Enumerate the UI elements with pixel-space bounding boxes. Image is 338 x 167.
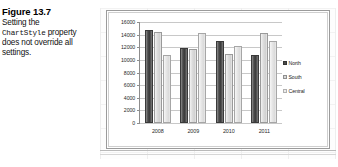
embedded-chart-object[interactable]: 1600014000120001000080006000400020000 20… — [106, 10, 330, 149]
figure-caption-title: Figure 13.7 — [2, 6, 94, 17]
chart-legend[interactable]: NorthSouthCentral — [283, 60, 325, 102]
x-axis-tick-label: 2011 — [259, 128, 270, 134]
bar-central-2008[interactable] — [163, 55, 171, 123]
bar-north-2009[interactable] — [180, 48, 188, 123]
legend-label: Central — [289, 88, 305, 94]
spreadsheet-screenshot-panel: 1600014000120001000080006000400020000 20… — [100, 8, 336, 159]
y-axis-tick-label: 8000 — [124, 70, 135, 76]
bar-central-2011[interactable] — [269, 41, 277, 123]
chart-inner-area: 1600014000120001000080006000400020000 20… — [110, 14, 326, 145]
legend-swatch-icon — [283, 75, 287, 79]
y-axis-tick-label: 16000 — [121, 19, 135, 25]
bar-south-2008[interactable] — [154, 32, 162, 123]
bar-north-2011[interactable] — [251, 55, 259, 123]
bar-group-2010: 2010 — [216, 22, 242, 123]
bar-central-2010[interactable] — [234, 46, 242, 123]
caption-code-term: ChartStyle — [2, 29, 46, 37]
y-axis-tick-label: 2000 — [124, 107, 135, 113]
gridline — [140, 123, 282, 124]
bar-north-2010[interactable] — [216, 41, 224, 123]
x-axis-tick-label: 2010 — [223, 128, 235, 134]
legend-label: North — [289, 60, 301, 66]
caption-line-4: settings. — [2, 48, 31, 57]
legend-entry-north[interactable]: North — [283, 60, 325, 66]
y-axis-tick-label: 6000 — [124, 82, 135, 88]
chart-plot-area: 1600014000120001000080006000400020000 20… — [139, 22, 282, 124]
bar-group-2011: 2011 — [251, 22, 277, 123]
caption-line-1: Setting the — [2, 18, 40, 27]
spreadsheet-row-divider-secondary — [100, 154, 336, 155]
legend-entry-central[interactable]: Central — [283, 88, 325, 94]
caption-line-3: does not override all — [2, 38, 73, 47]
bar-group-2008: 2008 — [145, 22, 171, 123]
bar-central-2009[interactable] — [198, 33, 206, 123]
bar-south-2011[interactable] — [260, 33, 268, 123]
legend-label: South — [289, 74, 302, 80]
y-axis-tick-label: 4000 — [124, 95, 135, 101]
y-axis-tick-label: 0 — [132, 120, 135, 126]
x-axis-tick-label: 2009 — [187, 128, 199, 134]
y-axis-tick-label: 14000 — [121, 32, 135, 38]
caption-line-2-tail: property — [46, 28, 77, 37]
figure-caption-body: Setting the ChartStyle property does not… — [2, 18, 94, 57]
figure-caption-block: Figure 13.7 Setting the ChartStyle prope… — [2, 6, 94, 57]
legend-swatch-icon — [283, 61, 287, 65]
x-axis-tick-label: 2008 — [152, 128, 164, 134]
y-axis-tick-label: 12000 — [121, 44, 135, 50]
bar-north-2008[interactable] — [145, 30, 153, 123]
spreadsheet-row-divider — [100, 150, 336, 151]
bar-group-2009: 2009 — [180, 22, 206, 123]
y-axis-tick — [137, 123, 140, 124]
bar-south-2010[interactable] — [225, 54, 233, 123]
legend-entry-south[interactable]: South — [283, 74, 325, 80]
bar-south-2009[interactable] — [189, 49, 197, 123]
legend-swatch-icon — [283, 89, 287, 93]
y-axis-tick-label: 10000 — [121, 57, 135, 63]
chart-bars-layer: 2008200920102011 — [140, 22, 282, 123]
